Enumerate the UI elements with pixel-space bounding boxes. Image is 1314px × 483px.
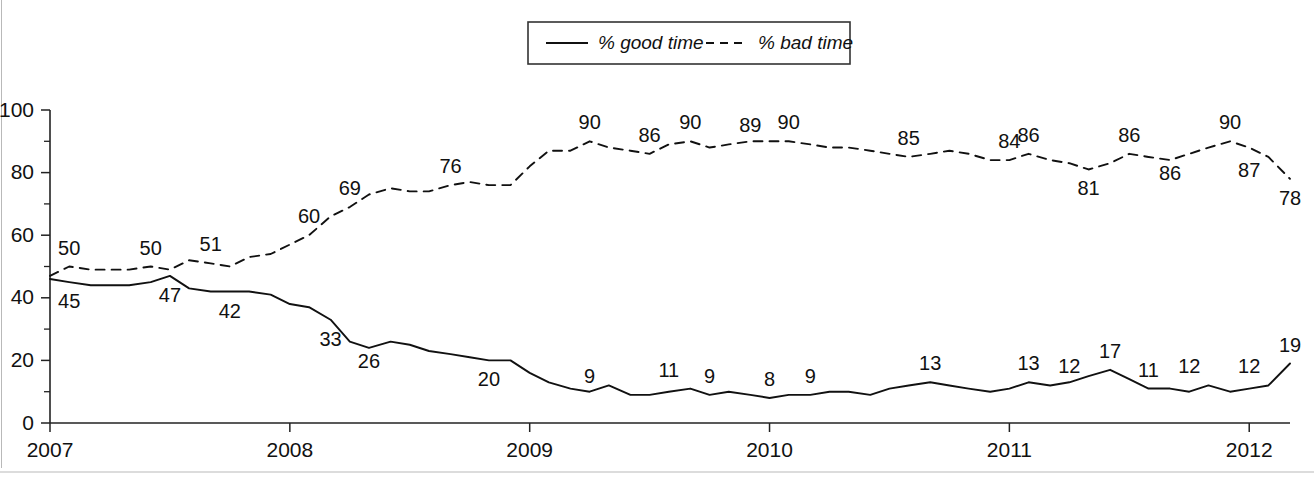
x-axis-tick-labels: 200720082009201020112012 <box>27 438 1273 461</box>
y-axis-tick-label: 80 <box>11 160 34 183</box>
data-point-label: 51 <box>200 233 222 255</box>
y-axis-tick-label: 20 <box>11 348 34 371</box>
data-point-label: 60 <box>298 205 320 227</box>
data-point-label: 78 <box>1279 187 1301 209</box>
data-point-label: 42 <box>219 300 241 322</box>
data-point-label: 86 <box>1118 124 1140 146</box>
data-point-label: 45 <box>58 290 80 312</box>
data-point-label: 81 <box>1077 177 1099 199</box>
legend-label: % good time <box>598 32 704 53</box>
data-point-label: 86 <box>1159 162 1181 184</box>
y-axis-tick-label: 100 <box>0 98 34 121</box>
data-point-label: 50 <box>58 237 80 259</box>
data-point-label: 20 <box>478 368 500 390</box>
data-point-label: 69 <box>339 177 361 199</box>
y-axis-tick-label: 40 <box>11 285 34 308</box>
data-point-label: 17 <box>1099 340 1121 362</box>
data-point-label: 76 <box>439 155 461 177</box>
data-point-label: 90 <box>1219 111 1241 133</box>
data-point-label: 33 <box>319 328 341 350</box>
y-axis-tick-label: 60 <box>11 223 34 246</box>
data-point-label: 19 <box>1279 334 1301 356</box>
x-axis-tick-label: 2010 <box>746 438 793 461</box>
data-point-label: 12 <box>1058 355 1080 377</box>
data-point-label: 86 <box>1017 124 1039 146</box>
x-axis-tick-label: 2008 <box>266 438 313 461</box>
data-point-label: 90 <box>579 111 601 133</box>
data-point-label: 11 <box>1138 359 1159 381</box>
legend-label: % bad time <box>758 32 853 53</box>
data-point-label: 47 <box>159 284 181 306</box>
data-point-label: 50 <box>140 237 162 259</box>
data-point-label: 11 <box>658 359 679 381</box>
line-chart: 020406080100 200720082009201020112012 45… <box>0 0 1314 483</box>
series-line-bad-time <box>50 141 1290 276</box>
x-axis-tick-label: 2012 <box>1226 438 1273 461</box>
chart-container: 020406080100 200720082009201020112012 45… <box>0 0 1314 483</box>
data-point-label: 13 <box>1017 352 1039 374</box>
x-axis-tick-label: 2007 <box>27 438 74 461</box>
data-point-label: 13 <box>919 352 941 374</box>
data-point-label: 87 <box>1238 159 1260 181</box>
data-point-label: 9 <box>584 365 595 387</box>
chart-legend: % good time% bad time <box>528 22 853 64</box>
y-axis-tick-label: 0 <box>22 411 34 434</box>
data-point-label: 86 <box>638 124 660 146</box>
data-point-label: 9 <box>704 365 715 387</box>
y-axis-tick-labels: 020406080100 <box>0 98 34 434</box>
data-point-label: 8 <box>764 368 775 390</box>
data-point-label: 90 <box>778 111 800 133</box>
data-point-label: 26 <box>358 350 380 372</box>
chart-axes <box>41 110 1290 432</box>
data-point-labels: 4547423326209119891313121711121219505051… <box>58 111 1301 390</box>
data-point-label: 12 <box>1238 355 1260 377</box>
x-axis-tick-label: 2009 <box>506 438 553 461</box>
data-point-label: 90 <box>679 111 701 133</box>
data-point-label: 9 <box>805 365 816 387</box>
data-point-label: 12 <box>1178 355 1200 377</box>
x-axis-tick-label: 2011 <box>987 438 1032 461</box>
data-point-label: 85 <box>898 127 920 149</box>
data-point-label: 89 <box>739 114 761 136</box>
